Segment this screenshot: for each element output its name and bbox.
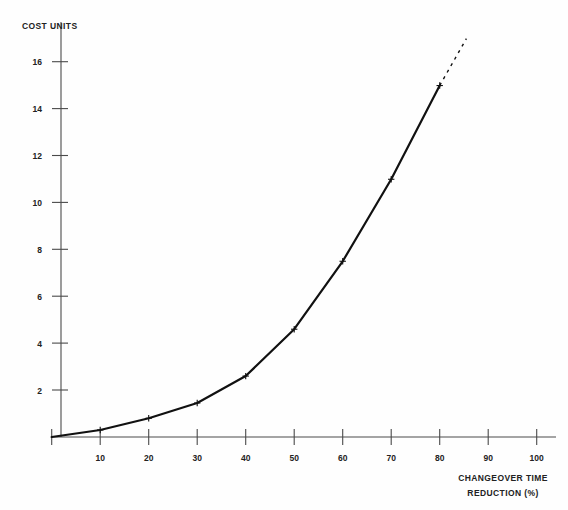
y-axis-title: COST UNITS [22, 21, 77, 31]
x-tick-label-90: 90 [483, 453, 493, 463]
x-tick-label-10: 10 [95, 453, 105, 463]
chart-plot-area: 16 14 12 10 8 6 4 2 10 20 30 [0, 0, 568, 510]
cost-units-vs-changeover-time-chart: 16 14 12 10 8 6 4 2 10 20 30 [0, 0, 568, 510]
x-tick-label-80: 80 [435, 453, 445, 463]
series-path-cost-curve-extrapolated [440, 39, 467, 86]
data-point-marker [97, 427, 103, 433]
y-tick-label-14: 14 [33, 104, 43, 114]
y-tick-label-10: 10 [33, 198, 43, 208]
x-tick-label-40: 40 [241, 453, 251, 463]
y-tick-label-16: 16 [33, 57, 43, 67]
x-axis-title-line2: REDUCTION (%) [467, 488, 538, 498]
y-tick-label-2: 2 [37, 386, 42, 396]
y-tick-label-6: 6 [37, 292, 42, 302]
x-tick-label-60: 60 [338, 453, 348, 463]
x-axis-title-line1: CHANGEOVER TIME [458, 473, 548, 483]
x-tick-label-20: 20 [144, 453, 154, 463]
series-path-cost-curve-measured [52, 86, 440, 437]
x-tick-label-50: 50 [289, 453, 299, 463]
y-tick-label-8: 8 [37, 245, 42, 255]
x-tick-label-100: 100 [530, 453, 544, 463]
y-axis-tick-labels: 16 14 12 10 8 6 4 2 [33, 57, 43, 396]
y-tick-label-12: 12 [33, 151, 43, 161]
data-point-marker [146, 415, 152, 421]
x-tick-label-30: 30 [192, 453, 202, 463]
y-tick-label-4: 4 [37, 339, 42, 349]
y-axis-ticks [52, 62, 68, 390]
data-series-layer [52, 39, 467, 437]
x-axis-tick-labels: 10 20 30 40 50 60 70 80 90 100 [95, 453, 544, 463]
x-tick-label-70: 70 [386, 453, 396, 463]
